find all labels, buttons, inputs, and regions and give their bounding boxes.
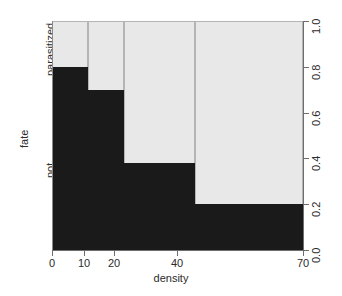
segment-parasitized [195, 21, 303, 204]
segment-parasitized [52, 21, 88, 67]
mosaic-bar-10-20[interactable] [88, 21, 124, 250]
x-tick-20 [114, 251, 115, 256]
y-axis-right-line [303, 21, 304, 251]
y-tick-label-0.2: 0.2 [311, 202, 322, 217]
y-tick-0.4 [304, 158, 309, 159]
segment-parasitized [88, 21, 124, 90]
x-axis-line [52, 250, 304, 251]
x-tick-label-40: 40 [157, 257, 197, 270]
y-axis-left-line [52, 21, 53, 251]
y-axis-title: fate [18, 130, 30, 148]
y-tick-0.2 [304, 204, 309, 205]
x-tick-70 [303, 251, 304, 256]
segment-not [88, 90, 124, 250]
x-tick-40 [177, 251, 178, 256]
x-axis-title: density [0, 272, 342, 284]
segment-not [124, 163, 196, 250]
mosaic-bar-0-10[interactable] [52, 21, 88, 250]
x-tick-0 [52, 251, 53, 256]
mosaic-bar-20-40[interactable] [124, 21, 196, 250]
y-tick-0.8 [304, 67, 309, 68]
y-tick-label-1.0: 1.0 [311, 19, 322, 34]
y-tick-label-0.0: 0.0 [311, 248, 322, 263]
y-tick-label-0.4: 0.4 [311, 156, 322, 171]
mosaic-plot-figure: fate not parasitized 0 10 20 40 70 [0, 0, 342, 296]
segment-parasitized [124, 21, 196, 163]
y-tick-1.0 [304, 21, 309, 22]
segment-not [195, 204, 303, 250]
x-tick-10 [84, 251, 85, 256]
y-tick-label-0.6: 0.6 [311, 111, 322, 126]
segment-not [52, 67, 88, 250]
y-tick-label-0.8: 0.8 [311, 65, 322, 80]
y-tick-0.0 [304, 250, 309, 251]
y-tick-0.6 [304, 113, 309, 114]
plot-area [52, 21, 303, 250]
x-tick-label-20: 20 [94, 257, 134, 270]
mosaic-bar-40-70[interactable] [195, 21, 303, 250]
